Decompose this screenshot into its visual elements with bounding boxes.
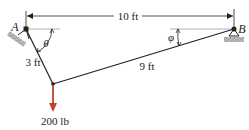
- load-label: 200 lb: [41, 115, 69, 127]
- load-force: 200 lb: [41, 85, 69, 127]
- pin-a: [24, 27, 29, 32]
- point-label-b: B: [238, 22, 246, 36]
- pin-b: [232, 27, 237, 32]
- cable-segment-cb: [53, 29, 234, 84]
- load-arrowhead-icon: [49, 103, 57, 112]
- phi-symbol: φ: [168, 31, 174, 43]
- cable-diagram: 10 ft θ φ A B 3 ft 9 ft 200 lb: [0, 0, 249, 130]
- angle-phi: φ: [168, 29, 181, 46]
- angle-theta: θ: [37, 29, 54, 52]
- segment-label-cb: 9 ft: [140, 60, 155, 72]
- span-dimension: 10 ft: [27, 10, 233, 22]
- point-label-a: A: [10, 20, 19, 34]
- span-label: 10 ft: [118, 10, 138, 22]
- segment-label-ac: 3 ft: [26, 56, 41, 68]
- ground-hatch-b: [224, 37, 244, 42]
- theta-symbol: θ: [43, 37, 49, 49]
